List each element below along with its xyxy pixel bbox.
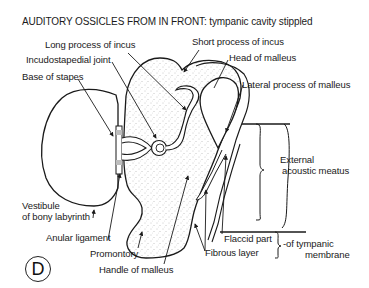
meatus-brace	[256, 124, 264, 220]
label-vestibule-line1: Vestibule	[22, 200, 90, 211]
label-fibrous-layer: Fibrous layer	[205, 247, 259, 258]
label-base-stapes: Base of stapes	[22, 71, 83, 82]
label-handle-malleus: Handle of malleus	[99, 264, 173, 275]
label-tympanic-line1: -of tympanic	[283, 238, 350, 249]
label-incudostapedial-joint: Incudostapedial joint	[26, 54, 111, 65]
label-vestibule: Vestibule of bony labyrinth	[22, 200, 90, 222]
label-external-meatus-line2: acoustic meatus	[280, 165, 349, 176]
label-anular-ligament: Anular ligament	[46, 232, 111, 243]
vestibule-outline	[42, 89, 118, 206]
label-external-meatus-line1: External	[280, 154, 349, 165]
label-short-process-incus: Short process of incus	[192, 36, 284, 47]
label-external-meatus: External acoustic meatus	[280, 154, 349, 176]
label-vestibule-line2: of bony labyrinth	[22, 211, 90, 222]
label-tympanic-membrane: -of tympanic membrane	[283, 238, 350, 260]
label-flaccid-part: Flaccid part	[224, 233, 272, 244]
label-long-process-incus: Long process of incus	[45, 39, 135, 50]
figure-title: AUDITORY OSSICLES FROM IN FRONT: tympani…	[22, 16, 313, 27]
figure-letter-badge: D	[25, 256, 51, 282]
label-tympanic-line2: membrane	[283, 249, 350, 260]
label-promontory: Promontory	[90, 248, 138, 259]
label-lateral-process-malleus: Lateral process of malleus	[242, 79, 350, 90]
label-head-malleus: Head of malleus	[229, 52, 296, 63]
